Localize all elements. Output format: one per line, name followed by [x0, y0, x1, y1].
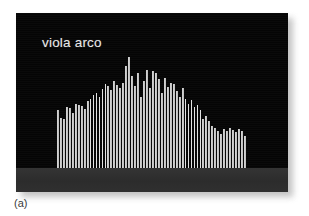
spectrum-bar	[140, 97, 142, 168]
spectrum-bar	[149, 88, 151, 168]
spectrum-bar	[116, 85, 118, 168]
spectrum-bar	[197, 105, 199, 168]
spectrum-bar	[205, 116, 207, 168]
spectrum-bar	[131, 76, 133, 168]
spectrum-panel: viola arco	[16, 13, 288, 192]
spectrum-bar	[167, 87, 169, 168]
spectrum-bar	[66, 107, 68, 168]
spectrum-bar	[84, 109, 86, 168]
spectrum-bar	[194, 107, 196, 168]
spectrum-bar	[69, 108, 71, 168]
spectrum-bar	[208, 121, 210, 168]
spectrum-bar	[122, 83, 124, 168]
spectrum-bar	[125, 66, 127, 168]
spectrum-bar	[105, 84, 107, 168]
spectrum-bar	[226, 131, 228, 168]
spectrum-bar	[229, 128, 231, 168]
spectrum-bar	[113, 81, 115, 168]
spectrum-bar	[143, 81, 145, 168]
spectrum-bar	[155, 73, 157, 168]
spectrum-bar	[244, 136, 246, 168]
spectrum-bars-container	[57, 57, 247, 168]
spectrum-bar	[110, 90, 112, 168]
spectrum-bar	[63, 119, 65, 168]
spectrum-bar	[176, 91, 178, 168]
spectrum-bar	[152, 71, 154, 168]
floor-band	[16, 168, 288, 192]
spectrum-bar	[200, 110, 202, 168]
spectrum-bar	[119, 88, 121, 168]
spectrum-bar	[60, 118, 62, 168]
spectrum-bar	[202, 119, 204, 168]
spectrum-bar	[134, 86, 136, 168]
spectrum-bar	[161, 93, 163, 168]
spectrum-bar	[211, 126, 213, 168]
spectrum-bar	[90, 99, 92, 168]
figure-caption: (a)	[14, 197, 27, 209]
spectrum-bar	[81, 106, 83, 168]
spectrum-bar	[96, 93, 98, 168]
spectrum-bar	[170, 83, 172, 168]
spectrum-bar	[188, 104, 190, 168]
spectrum-bar	[232, 130, 234, 168]
spectrum-bar	[102, 89, 104, 168]
spectrum-bar	[128, 57, 130, 168]
spectrum-bar	[220, 134, 222, 168]
spectrum-bar	[238, 129, 240, 168]
spectrum-bar	[214, 128, 216, 168]
figure-root: viola arco (a)	[0, 0, 309, 216]
spectrum-bar	[146, 70, 148, 168]
spectrum-bar	[173, 84, 175, 168]
spectrum-bar	[164, 78, 166, 168]
spectrum-bar	[57, 110, 59, 168]
spectrum-bar	[107, 86, 109, 168]
spectrum-bar	[99, 97, 101, 168]
spectrum-bar	[93, 95, 95, 168]
spectrum-bar	[137, 73, 139, 168]
spectrum-bar	[158, 79, 160, 168]
spectrum-bar	[72, 113, 74, 169]
spectrum-bar	[223, 129, 225, 168]
instrument-label: viola arco	[42, 35, 102, 50]
spectrum-bar	[235, 132, 237, 168]
spectrum-bar	[241, 131, 243, 168]
spectrum-bar	[191, 100, 193, 168]
spectrum-bar	[87, 101, 89, 168]
spectrum-bar	[182, 88, 184, 168]
spectrum-bar	[217, 131, 219, 168]
spectrum-bar	[179, 97, 181, 168]
spectrum-bar	[185, 99, 187, 168]
spectrum-bar	[78, 105, 80, 168]
spectrum-bar	[75, 104, 77, 168]
